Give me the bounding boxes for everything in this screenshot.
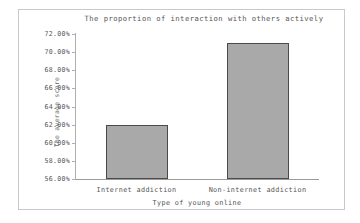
y-tick-mark xyxy=(72,88,76,89)
y-tick-mark xyxy=(72,107,76,108)
y-tick-mark xyxy=(72,179,76,180)
y-tick-mark xyxy=(72,143,76,144)
y-tick-mark xyxy=(72,52,76,53)
chart-title: The proportion of interaction with other… xyxy=(68,14,340,23)
x-tick-label: Internet addiction xyxy=(97,186,177,194)
x-axis-title: Type of young online xyxy=(76,199,318,207)
y-tick-label: 60.00% xyxy=(44,139,70,147)
x-tick-label: Non-internet addiction xyxy=(209,186,307,194)
y-tick-label: 68.00% xyxy=(44,66,70,74)
y-tick-mark xyxy=(72,70,76,71)
bar xyxy=(106,125,168,179)
x-axis-line xyxy=(75,179,319,180)
chart-figure: The proportion of interaction with other… xyxy=(0,0,360,223)
plot-area: 72.00%70.00%68.00%66.00%64.00%62.00%60.0… xyxy=(76,34,318,179)
y-tick-label: 58.00% xyxy=(44,157,70,165)
y-tick-mark xyxy=(72,161,76,162)
y-tick-mark xyxy=(72,34,76,35)
y-tick-mark xyxy=(72,125,76,126)
y-tick-label: 62.00% xyxy=(44,121,70,129)
y-tick-label: 70.00% xyxy=(44,48,70,56)
y-tick-label: 56.00% xyxy=(44,175,70,183)
bar xyxy=(227,43,289,179)
y-tick-label: 64.00% xyxy=(44,103,70,111)
y-tick-label: 72.00% xyxy=(44,30,70,38)
y-tick-label: 66.00% xyxy=(44,84,70,92)
